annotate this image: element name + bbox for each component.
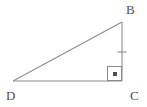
vertex-label-d: D	[6, 89, 15, 102]
vertex-label-c: C	[130, 89, 139, 102]
triangle-diagram-svg	[0, 0, 147, 107]
vertex-label-b: B	[126, 3, 135, 16]
segment-db	[13, 22, 122, 81]
right-angle-dot-icon	[113, 72, 117, 76]
geometry-figure: B D C	[0, 0, 147, 107]
